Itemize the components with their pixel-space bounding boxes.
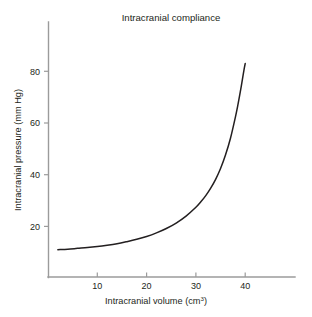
y-axis-title: Intracranial pressure (mm Hg): [13, 89, 23, 211]
y-tick-label-60: 60: [30, 118, 40, 128]
chart-title: Intracranial compliance: [122, 12, 221, 23]
y-tick-label-40: 40: [30, 170, 40, 180]
x-tick-label-30: 30: [191, 281, 201, 291]
x-tick-label-10: 10: [92, 281, 102, 291]
pressure-volume-curve: [58, 64, 245, 250]
x-axis-title-suffix: ): [204, 296, 207, 306]
x-tick-label-40: 40: [240, 281, 250, 291]
x-axis-title: Intracranial volume (cm3): [105, 295, 207, 307]
x-axis-title-main: Intracranial volume (cm: [105, 296, 201, 306]
y-tick-label-80: 80: [30, 67, 40, 77]
chart-figure: Intracranial compliance 80 60 40 20 10 2…: [0, 0, 312, 317]
x-tick-label-20: 20: [142, 281, 152, 291]
intracranial-compliance-chart: Intracranial compliance 80 60 40 20 10 2…: [0, 0, 312, 317]
y-tick-label-20: 20: [30, 222, 40, 232]
